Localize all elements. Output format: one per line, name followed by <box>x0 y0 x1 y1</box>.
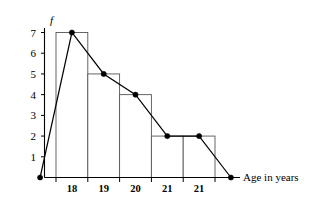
histogram-bar <box>88 74 120 178</box>
y-axis-tick-label: 2 <box>31 130 37 142</box>
y-axis-tick-label: 3 <box>31 109 37 121</box>
y-axis-tick-label: 1 <box>31 151 37 163</box>
data-point-marker <box>101 71 106 76</box>
y-axis-label: f <box>50 14 55 26</box>
histogram-bar <box>151 136 183 177</box>
data-point-marker <box>197 133 202 138</box>
y-axis-tick-label: 5 <box>31 68 37 80</box>
x-axis-ticks-group: 1819202121 <box>56 178 215 194</box>
y-axis-tick-label: 7 <box>31 27 37 39</box>
bars-group <box>56 33 215 178</box>
x-axis-tick-label: 19 <box>98 183 109 194</box>
histogram-bar <box>183 136 215 177</box>
x-axis-tick-label: 20 <box>130 183 141 194</box>
x-axis-tick-label: 21 <box>194 183 205 194</box>
y-axis-tick-label: 6 <box>31 47 37 59</box>
y-axis-tick-label: 4 <box>31 89 37 101</box>
x-axis-tick-label: 18 <box>67 183 78 194</box>
histogram-bar <box>120 95 152 178</box>
data-point-marker <box>69 30 74 35</box>
data-point-marker <box>38 175 43 180</box>
x-axis-tick-label: 21 <box>162 183 173 194</box>
data-point-marker <box>133 92 138 97</box>
x-axis-label: Age in years <box>243 171 299 183</box>
frequency-histogram-figure: 1234567 1819202121 f Age in years <box>0 0 310 210</box>
chart-canvas: 1234567 1819202121 f Age in years <box>0 0 310 210</box>
histogram-bar <box>56 33 88 178</box>
data-point-marker <box>165 133 170 138</box>
y-axis-ticks-group: 1234567 <box>31 27 45 163</box>
